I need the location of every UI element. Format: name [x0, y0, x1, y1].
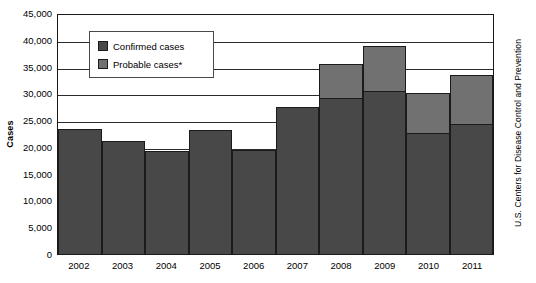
bar-stack	[102, 141, 146, 254]
bar-segment-probable	[319, 64, 363, 97]
bar-slot	[363, 15, 407, 254]
x-axis-tick-label: 2006	[232, 259, 276, 275]
y-axis-tick-label: 30,000	[0, 89, 52, 99]
y-axis-tick-label: 35,000	[0, 63, 52, 73]
y-axis-tick-label: 10,000	[0, 196, 52, 206]
bar-stack	[363, 46, 407, 254]
bar-slot	[319, 15, 363, 254]
x-axis-tick-label: 2005	[188, 259, 232, 275]
bar-slot	[450, 15, 494, 254]
legend-item-probable: Probable cases*	[98, 55, 213, 73]
source-credit: U.S. Centers for Disease Control and Pre…	[513, 57, 523, 227]
y-axis-tick-labels: 45,00040,00035,00030,00025,00020,00015,0…	[0, 0, 52, 283]
legend-label-confirmed: Confirmed cases	[113, 41, 184, 52]
bar-segment-probable	[406, 93, 450, 133]
bar-stack	[276, 107, 320, 254]
bar-chart: Cases 45,00040,00035,00030,00025,00020,0…	[0, 0, 536, 283]
x-axis-tick-labels: 2002200320042005200620072008200920102011	[57, 259, 494, 275]
y-axis-tick-label: 20,000	[0, 143, 52, 153]
bar-segment-confirmed	[450, 124, 494, 254]
bar-stack	[406, 93, 450, 254]
y-axis-tick-label: 15,000	[0, 170, 52, 180]
x-axis-tick-label: 2004	[144, 259, 188, 275]
y-axis-tick-label: 5,000	[0, 223, 52, 233]
bar-slot	[276, 15, 320, 254]
bar-segment-confirmed	[189, 130, 233, 254]
bar-segment-confirmed	[406, 133, 450, 254]
bar-segment-confirmed	[232, 150, 276, 254]
y-axis-tick-label: 40,000	[0, 36, 52, 46]
x-axis-tick-label: 2009	[363, 259, 407, 275]
bar-stack	[450, 75, 494, 254]
bar-segment-confirmed	[58, 129, 102, 254]
chart-legend: Confirmed cases Probable cases*	[89, 31, 214, 78]
bar-stack	[58, 129, 102, 254]
bar-stack	[232, 150, 276, 254]
bar-segment-probable	[363, 46, 407, 91]
bar-stack	[319, 64, 363, 254]
bar-segment-confirmed	[276, 107, 320, 254]
x-axis-tick-label: 2003	[101, 259, 145, 275]
bar-slot	[232, 15, 276, 254]
legend-label-probable: Probable cases*	[113, 59, 182, 70]
x-axis-tick-label: 2007	[276, 259, 320, 275]
x-axis-tick-label: 2008	[319, 259, 363, 275]
legend-swatch-probable-icon	[98, 59, 108, 69]
bar-segment-confirmed	[319, 98, 363, 254]
legend-item-confirmed: Confirmed cases	[98, 37, 213, 55]
x-axis-tick-label: 2010	[407, 259, 451, 275]
x-axis-tick-label: 2011	[450, 259, 494, 275]
bar-segment-confirmed	[145, 151, 189, 254]
bar-stack	[145, 151, 189, 254]
bar-segment-confirmed	[102, 141, 146, 254]
x-axis-tick-label: 2002	[57, 259, 101, 275]
bar-segment-confirmed	[363, 91, 407, 254]
y-axis-tick-label: 45,000	[0, 9, 52, 19]
bar-segment-probable	[450, 75, 494, 124]
legend-swatch-confirmed-icon	[98, 41, 108, 51]
bar-slot	[406, 15, 450, 254]
y-axis-tick-label: 25,000	[0, 116, 52, 126]
y-axis-tick-label: 0	[0, 250, 52, 260]
bar-stack	[189, 130, 233, 254]
